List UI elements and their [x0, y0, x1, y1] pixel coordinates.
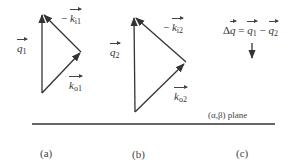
label-ko1: ko1: [69, 80, 82, 93]
label-minus-ki2: − ki2: [163, 22, 183, 35]
label-minus-ki1: − ki1: [61, 13, 81, 26]
label-ko2: ko2: [174, 91, 187, 104]
plane-label: (α,β) plane: [208, 111, 247, 120]
caption-a: (a): [40, 148, 52, 159]
vector-ko2: [135, 64, 184, 112]
label-q2: q2: [110, 47, 120, 60]
vector-q2: [134, 18, 135, 112]
delta-q-equation: Δq = q1 − q2: [223, 25, 278, 38]
label-q1: q1: [17, 43, 27, 56]
caption-b: (b): [132, 149, 145, 160]
caption-c: (c): [236, 148, 248, 159]
